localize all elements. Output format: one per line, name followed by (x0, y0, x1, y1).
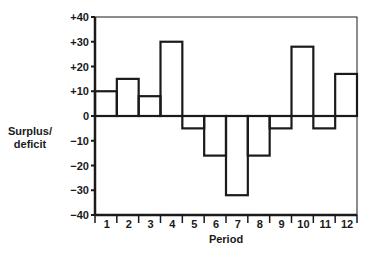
x-tick-label: 3 (148, 218, 154, 230)
x-tick-label: 10 (297, 218, 309, 230)
bar-period-4 (161, 42, 183, 116)
bar-period-11 (313, 116, 335, 128)
y-tick-label: −10 (70, 135, 89, 147)
x-ticks: 123456789101112 (95, 215, 357, 230)
x-tick-label: 9 (279, 218, 285, 230)
y-tick-label: −20 (70, 160, 89, 172)
y-tick-label: +40 (70, 11, 89, 23)
x-tick-label: 12 (341, 218, 353, 230)
y-axis-label-line2: deficit (14, 138, 47, 150)
bar-period-6 (204, 116, 226, 156)
bar-period-10 (292, 47, 314, 116)
y-tick-label: −40 (70, 209, 89, 221)
x-tick-label: 2 (126, 218, 132, 230)
bar-period-7 (226, 116, 248, 195)
surplus-deficit-chart: +40+30+20+100−10−20−30−40 12345678910111… (0, 0, 372, 261)
x-tick-label: 11 (319, 218, 331, 230)
y-tick-label: +30 (70, 36, 89, 48)
bar-period-5 (182, 116, 204, 128)
y-tick-label: +10 (70, 85, 89, 97)
bar-period-12 (335, 74, 357, 116)
y-tick-label: −30 (70, 184, 89, 196)
x-tick-label: 4 (169, 218, 176, 230)
x-tick-label: 1 (104, 218, 110, 230)
x-tick-label: 7 (235, 218, 241, 230)
x-tick-label: 8 (257, 218, 263, 230)
y-axis-label-line1: Surplus/ (8, 125, 52, 137)
y-ticks: +40+30+20+100−10−20−30−40 (70, 11, 95, 221)
x-axis-label: Period (209, 233, 243, 245)
x-tick-label: 6 (213, 218, 219, 230)
y-tick-label: 0 (83, 110, 89, 122)
bar-period-3 (139, 96, 161, 116)
bar-period-1 (95, 91, 117, 116)
bar-period-9 (270, 116, 292, 128)
y-tick-label: +20 (70, 61, 89, 73)
bar-period-2 (117, 79, 139, 116)
bars (95, 42, 357, 195)
x-tick-label: 5 (191, 218, 197, 230)
bar-period-8 (248, 116, 270, 156)
